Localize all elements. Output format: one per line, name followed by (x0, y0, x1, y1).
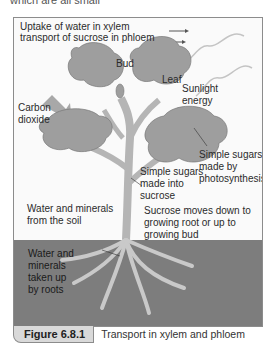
legend-phloem: transport of sucrose in phloem (20, 32, 155, 43)
label-photosynthesis-1: Simple sugars (199, 149, 262, 160)
leaf-shape (39, 109, 112, 152)
label-sucrose-1: Simple sugars (140, 166, 203, 177)
sunlight-ray-icon (184, 34, 244, 63)
figure-title: Transport in xylem and phloem (101, 328, 245, 340)
figure-caption: Figure 6.8.1 Transport in xylem and phlo… (13, 326, 245, 342)
label-water-soil-1: Water and minerals (27, 203, 113, 214)
xylem-arrow-icon (185, 29, 189, 33)
label-photosynthesis-3: photosynthesis (199, 173, 263, 184)
bud-shape (116, 84, 124, 98)
label-water-soil-2: from the soil (27, 215, 81, 226)
phloem-arrow-icon (182, 40, 186, 44)
context-text: which are all small (10, 0, 100, 6)
diagram-figure: Uptake of water in xylem transport of su… (13, 17, 263, 327)
label-bud: Bud (116, 58, 134, 69)
legend-xylem: Uptake of water in xylem (20, 21, 130, 32)
label-roots-1: Water and (28, 248, 74, 259)
label-sucrose-moves-2: growing root or up to (144, 217, 236, 228)
label-leaf: Leaf (162, 74, 181, 85)
figure-number: Figure 6.8.1 (13, 326, 94, 343)
label-carbon-2: dioxide (18, 114, 50, 125)
label-sunlight: Sunlight (182, 83, 218, 94)
label-roots-3: taken up (28, 272, 66, 283)
label-carbon: Carbon (18, 102, 51, 113)
label-photosynthesis-2: made by (199, 161, 237, 172)
label-sucrose-moves-3: growing bud (144, 229, 198, 240)
label-sucrose-moves-1: Sucrose moves down to (144, 205, 251, 216)
label-sucrose-3: sucrose (140, 190, 175, 201)
leaf-shape (130, 36, 191, 83)
label-sucrose-2: made into (140, 178, 184, 189)
label-roots-2: minerals (28, 260, 66, 271)
label-sunlight-2: energy (182, 95, 213, 106)
label-roots-4: by roots (28, 284, 64, 295)
